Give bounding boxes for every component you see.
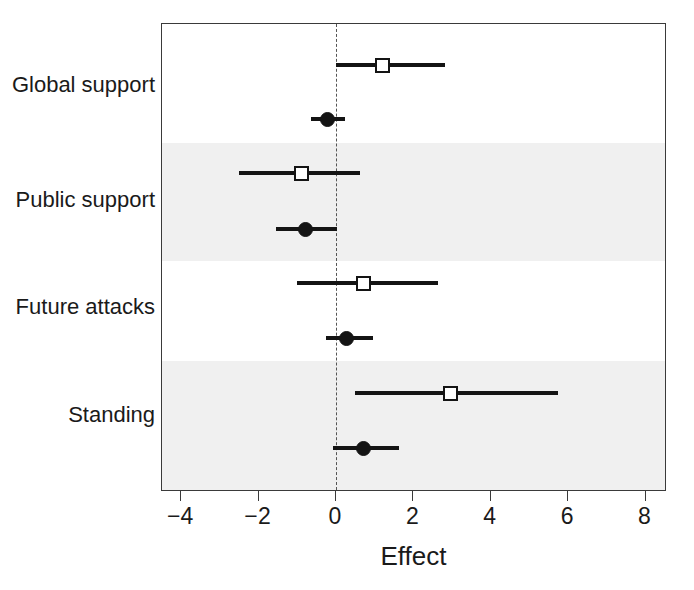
- x-axis-tick: [335, 491, 336, 501]
- open-square-estimate-marker: [443, 386, 458, 401]
- open-square-estimate-marker: [375, 58, 390, 73]
- x-axis-tick-label: 8: [638, 503, 651, 530]
- y-axis-category-label: Global support: [12, 72, 155, 98]
- open-square-estimate-marker: [356, 276, 371, 291]
- plot-area: [161, 23, 666, 491]
- filled-circle-estimate-marker: [339, 331, 354, 346]
- y-axis-category-label: Public support: [16, 187, 155, 213]
- filled-circle-estimate-marker: [298, 222, 313, 237]
- x-axis-tick-label: −4: [167, 503, 194, 530]
- y-axis-category-label: Future attacks: [16, 294, 155, 320]
- x-axis-tick: [258, 491, 259, 501]
- x-axis-tick-label: 6: [561, 503, 574, 530]
- x-axis-tick: [490, 491, 491, 501]
- x-axis-tick-label: 4: [483, 503, 496, 530]
- y-axis-category-label: Standing: [68, 402, 155, 428]
- row-shading-band: [162, 361, 665, 491]
- zero-reference-line: [336, 24, 337, 490]
- x-axis-tick: [180, 491, 181, 501]
- x-axis-tick: [645, 491, 646, 501]
- row-shading-band: [162, 143, 665, 261]
- x-axis-tick: [412, 491, 413, 501]
- x-axis-tick-label: 0: [329, 503, 342, 530]
- confidence-interval-line: [336, 63, 445, 66]
- x-axis-tick: [567, 491, 568, 501]
- x-axis-tick-label: −2: [244, 503, 271, 530]
- open-square-estimate-marker: [294, 166, 309, 181]
- x-axis-title: Effect: [161, 541, 666, 572]
- filled-circle-estimate-marker: [320, 112, 335, 127]
- forest-plot-figure: −4−202468 Global supportPublic supportFu…: [0, 0, 694, 590]
- x-axis-tick-label: 2: [406, 503, 419, 530]
- filled-circle-estimate-marker: [356, 441, 371, 456]
